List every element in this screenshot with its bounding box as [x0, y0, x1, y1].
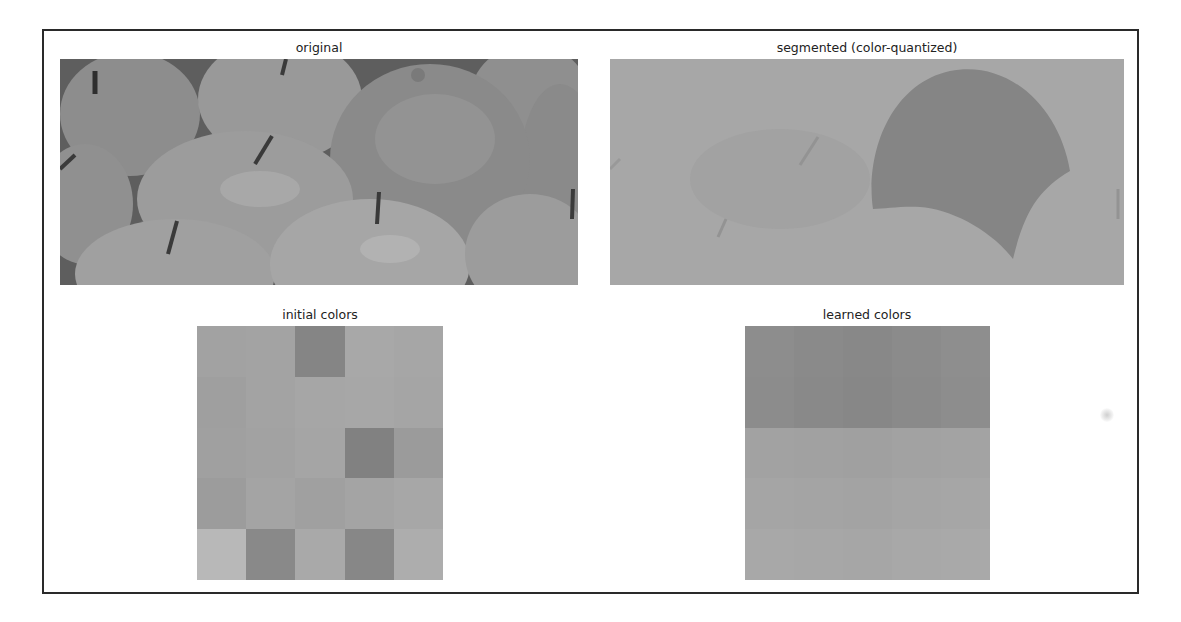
color-cell [246, 377, 295, 428]
color-cell [745, 478, 794, 529]
color-cell [197, 529, 246, 580]
color-cell [745, 529, 794, 580]
learned-colors-grid [745, 326, 990, 580]
color-cell [794, 428, 843, 479]
color-cell [197, 428, 246, 479]
color-cell [295, 428, 344, 479]
color-cell [197, 377, 246, 428]
color-cell [794, 377, 843, 428]
color-cell [345, 428, 394, 479]
color-cell [892, 478, 941, 529]
color-cell [794, 478, 843, 529]
segmented-image [610, 59, 1124, 285]
color-cell [246, 326, 295, 377]
color-cell [295, 377, 344, 428]
color-cell [345, 529, 394, 580]
color-cell [794, 529, 843, 580]
color-cell [394, 377, 443, 428]
color-cell [295, 529, 344, 580]
color-cell [892, 377, 941, 428]
initial-colors-grid [197, 326, 443, 580]
color-cell [246, 529, 295, 580]
color-cell [394, 529, 443, 580]
color-cell [197, 478, 246, 529]
learned-colors-title: learned colors [823, 307, 912, 322]
color-cell [394, 326, 443, 377]
color-cell [941, 326, 990, 377]
color-cell [843, 377, 892, 428]
color-cell [345, 326, 394, 377]
color-cell [197, 326, 246, 377]
color-cell [345, 478, 394, 529]
initial-colors-title: initial colors [282, 307, 358, 322]
color-cell [794, 326, 843, 377]
color-cell [246, 478, 295, 529]
color-cell [941, 377, 990, 428]
color-cell [745, 326, 794, 377]
background-speck [1100, 408, 1114, 422]
original-title: original [296, 40, 343, 55]
color-cell [843, 478, 892, 529]
color-cell [941, 529, 990, 580]
color-cell [941, 478, 990, 529]
color-cell [745, 428, 794, 479]
color-cell [295, 326, 344, 377]
color-cell [295, 478, 344, 529]
color-cell [246, 428, 295, 479]
color-cell [892, 428, 941, 479]
color-cell [892, 529, 941, 580]
color-cell [843, 326, 892, 377]
color-cell [345, 377, 394, 428]
color-cell [394, 428, 443, 479]
color-cell [745, 377, 794, 428]
color-cell [843, 428, 892, 479]
original-image [60, 59, 578, 285]
color-cell [843, 529, 892, 580]
segmented-title: segmented (color-quantized) [777, 40, 958, 55]
color-cell [941, 428, 990, 479]
color-cell [892, 326, 941, 377]
color-cell [394, 478, 443, 529]
